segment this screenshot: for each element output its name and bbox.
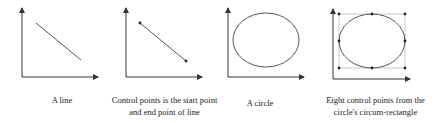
control-point-top-left <box>338 13 341 16</box>
caption-line: A line <box>22 94 102 106</box>
caption-line-2: circle's circum-rectangle <box>318 106 433 118</box>
control-point-top-middle <box>371 13 374 16</box>
panel-circle <box>228 8 304 77</box>
panel-line-control-points <box>126 8 202 77</box>
caption-circle-control-points: Eight control points from the circle's c… <box>318 94 433 118</box>
caption-circle: A circle <box>230 97 290 109</box>
panel-circle-control-points <box>333 9 410 79</box>
caption-line-2: and end point of line <box>107 106 222 118</box>
control-point-bottom-middle <box>371 67 374 70</box>
control-point-end <box>185 60 188 63</box>
circle-shape <box>233 13 299 67</box>
caption-line-1: A circle <box>230 97 290 109</box>
control-point-top-right <box>404 13 407 16</box>
control-point-middle-right <box>404 40 407 43</box>
control-point-middle-left <box>338 40 341 43</box>
panel-line <box>22 8 98 77</box>
caption-line-1: Control points is the start point <box>107 94 222 106</box>
circle-shape <box>339 14 405 68</box>
caption-line-control-points: Control points is the start point and en… <box>107 94 222 118</box>
control-point-bottom-right <box>404 67 407 70</box>
control-point-start <box>139 22 142 25</box>
caption-line-1: A line <box>22 94 102 106</box>
caption-line-1: Eight control points from the <box>318 94 433 106</box>
line-shape <box>140 23 186 61</box>
control-point-bottom-left <box>338 67 341 70</box>
line-shape <box>36 23 81 60</box>
